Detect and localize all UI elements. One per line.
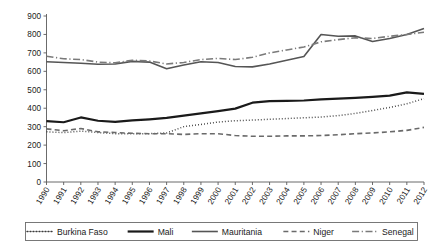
chart-container: 0100200300400500600700800900 19901991199… <box>0 0 432 250</box>
x-tick-label: 2012 <box>412 185 430 206</box>
legend-label: Senegal <box>382 227 414 237</box>
y-tick-label: 0 <box>36 178 41 187</box>
x-tick-label: 2010 <box>378 185 396 206</box>
x-tick-label: 2009 <box>360 185 378 206</box>
x-tick-label: 2008 <box>343 185 361 206</box>
y-tick-label: 800 <box>27 30 41 39</box>
x-axis: 1990199119921993199419951996199719981999… <box>34 182 429 206</box>
y-tick-label: 200 <box>27 141 41 150</box>
x-tick-label: 1998 <box>172 185 190 206</box>
legend-label: Burkina Faso <box>57 227 108 237</box>
y-axis: 0100200300400500600700800900 <box>27 12 46 187</box>
series-line-mali <box>47 92 425 122</box>
y-tick-label: 500 <box>27 86 41 95</box>
x-tick-label: 1992 <box>69 185 87 206</box>
x-tick-label: 1991 <box>52 185 70 206</box>
x-tick-label: 1997 <box>155 185 173 206</box>
x-tick-label: 2007 <box>326 185 344 206</box>
series-line-senegal <box>47 32 425 64</box>
x-tick-label: 1996 <box>137 185 155 206</box>
series-line-burkina-faso <box>47 99 425 134</box>
x-tick-label: 2002 <box>240 185 258 206</box>
legend-label: Mauritania <box>222 227 262 237</box>
x-tick-label: 2005 <box>292 185 310 206</box>
y-tick-label: 400 <box>27 104 41 113</box>
x-tick-label: 1990 <box>34 185 52 206</box>
x-tick-label: 2004 <box>275 185 293 206</box>
x-tick-label: 2006 <box>309 185 327 206</box>
x-tick-label: 2011 <box>395 185 412 205</box>
x-tick-label: 1995 <box>120 185 138 206</box>
x-tick-label: 2001 <box>223 185 241 206</box>
x-tick-label: 2000 <box>206 185 224 206</box>
chart-legend: Burkina FasoMaliMauritaniaNigerSenegal <box>26 223 418 241</box>
y-tick-label: 900 <box>27 12 41 21</box>
y-tick-label: 600 <box>27 67 41 76</box>
x-tick-label: 1994 <box>103 185 121 206</box>
line-chart: 0100200300400500600700800900 19901991199… <box>0 0 432 250</box>
series-lines <box>47 29 425 137</box>
legend-label: Mali <box>158 227 174 237</box>
y-tick-label: 300 <box>27 123 41 132</box>
legend-label: Niger <box>313 227 334 237</box>
y-tick-label: 100 <box>27 160 41 169</box>
x-tick-label: 1999 <box>189 185 207 206</box>
y-tick-label: 700 <box>27 49 41 58</box>
x-tick-label: 1993 <box>86 185 104 206</box>
x-tick-label: 2003 <box>257 185 275 206</box>
series-line-niger <box>47 127 425 136</box>
